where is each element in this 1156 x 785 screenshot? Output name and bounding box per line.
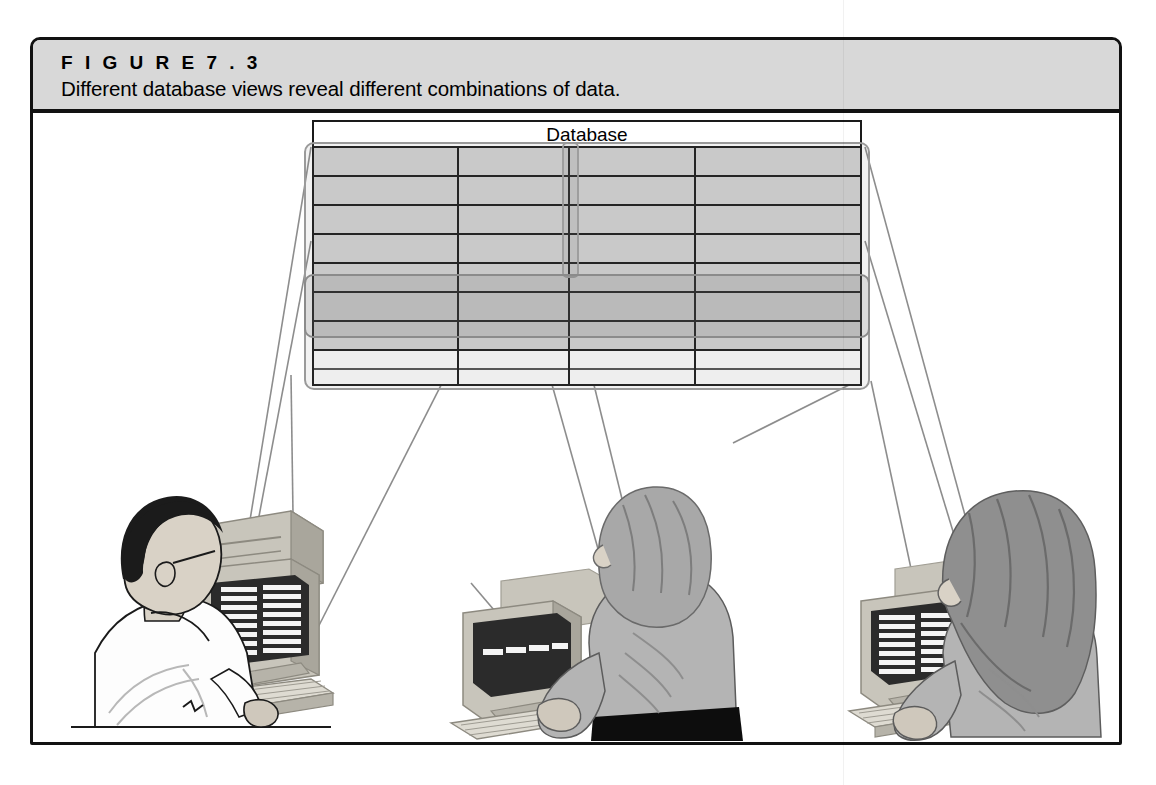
row-view-highlight[interactable] — [305, 275, 869, 337]
database-title-label: Database — [546, 124, 627, 145]
left-person-ear — [155, 562, 175, 586]
left-workstation — [71, 496, 333, 727]
table-highlights — [305, 143, 869, 389]
figure-frame: F I G U R E 7 . 3 Different database vie… — [30, 37, 1122, 745]
column-view-highlight[interactable] — [563, 143, 578, 277]
figure-illustration: .ray { stroke: #8d8d8d; stroke-width: 1.… — [33, 113, 1119, 742]
figure-caption-text: Different database views reveal differen… — [61, 77, 1119, 101]
database-views-diagram: .ray { stroke: #8d8d8d; stroke-width: 1.… — [33, 113, 1119, 742]
right-workstation — [849, 491, 1101, 741]
ray-right-elbow — [733, 381, 857, 443]
figure-caption-band: F I G U R E 7 . 3 Different database vie… — [33, 40, 1119, 113]
center-workstation — [451, 487, 743, 741]
left-person-hand — [244, 700, 278, 727]
figure-number-label: F I G U R E 7 . 3 — [61, 52, 1119, 74]
whole-table-highlight[interactable] — [305, 143, 869, 389]
center-person-hair — [599, 487, 712, 627]
